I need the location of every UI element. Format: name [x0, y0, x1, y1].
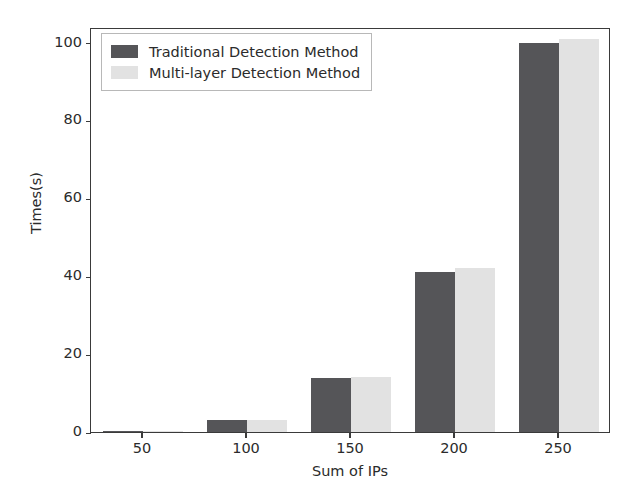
bar — [103, 431, 143, 432]
bar — [415, 272, 455, 432]
chart-legend: Traditional Detection Method Multi-layer… — [101, 33, 372, 91]
bar — [351, 377, 391, 432]
x-tick-mark — [557, 433, 558, 438]
y-tick-label: 40 — [20, 267, 82, 283]
x-tick-label: 150 — [310, 440, 390, 456]
x-tick-mark — [453, 433, 454, 438]
bar — [143, 431, 183, 432]
legend-label: Traditional Detection Method — [149, 44, 359, 60]
x-tick-label: 50 — [102, 440, 182, 456]
x-tick-mark — [245, 433, 246, 438]
x-axis-label: Sum of IPs — [90, 463, 610, 479]
y-tick-label: 0 — [20, 423, 82, 439]
x-tick-label: 100 — [206, 440, 286, 456]
bar — [559, 39, 599, 432]
x-tick-label: 250 — [518, 440, 598, 456]
x-tick-mark — [349, 433, 350, 438]
bar — [311, 378, 351, 432]
chart-figure: Times(s) 020406080100 50100150200250 Sum… — [0, 0, 639, 493]
y-tick-label: 60 — [20, 189, 82, 205]
legend-swatch-icon — [111, 66, 138, 79]
bar — [455, 268, 495, 432]
legend-item: Multi-layer Detection Method — [111, 62, 360, 83]
legend-item: Traditional Detection Method — [111, 41, 360, 62]
y-tick-label: 20 — [20, 345, 82, 361]
legend-swatch-icon — [111, 45, 138, 58]
bar — [207, 420, 247, 432]
bar — [247, 420, 287, 432]
y-tick-label: 80 — [20, 111, 82, 127]
legend-label: Multi-layer Detection Method — [149, 65, 360, 81]
x-tick-label: 200 — [414, 440, 494, 456]
y-tick-label: 100 — [20, 34, 82, 50]
x-tick-mark — [141, 433, 142, 438]
bar — [519, 43, 559, 432]
